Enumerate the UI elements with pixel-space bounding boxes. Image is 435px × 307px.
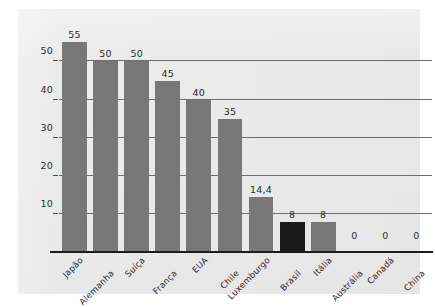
- bar-category: 45: [152, 31, 183, 252]
- y-tick-label: 10: [41, 197, 54, 208]
- x-axis-label: Brasil: [278, 268, 303, 293]
- y-tick-mark: [53, 99, 58, 100]
- x-axis-baseline: [50, 251, 433, 254]
- bar-category: 0: [370, 31, 401, 252]
- bar-value-label: 0: [351, 230, 357, 241]
- x-axis-label: Suíça: [123, 255, 147, 279]
- x-axis-label: França: [150, 268, 178, 296]
- bar: 50: [93, 61, 118, 252]
- bar: 45: [155, 81, 180, 252]
- plot-area: 1020304050 55505045403514,488000: [59, 31, 432, 252]
- bar-category: 0: [401, 31, 432, 252]
- y-tick-mark: [53, 137, 58, 138]
- bar: 8: [280, 222, 305, 252]
- bar-category: 8: [277, 31, 308, 252]
- bar-category: 0: [339, 31, 370, 252]
- x-axis-label: Japão: [61, 255, 86, 280]
- bar: 35: [218, 119, 243, 252]
- y-tick-label: 30: [41, 121, 54, 132]
- bar-series: 55505045403514,488000: [59, 31, 432, 252]
- bar-value-label: 50: [130, 48, 143, 59]
- bar-value-label: 45: [162, 68, 175, 79]
- bar-value-label: 35: [224, 106, 237, 117]
- bar-category: 35: [214, 31, 245, 252]
- bar-category: 50: [121, 31, 152, 252]
- bar-category: 40: [183, 31, 214, 252]
- bar: 40: [186, 100, 211, 252]
- chart-figure: 1020304050 55505045403514,488000 JapãoAl…: [0, 0, 435, 307]
- bar-value-label: 40: [193, 87, 206, 98]
- bar-value-label: 50: [99, 48, 112, 59]
- bar: 50: [124, 61, 149, 252]
- x-axis-label: China: [402, 268, 427, 293]
- bar: 8: [311, 222, 336, 252]
- bar-value-label: 8: [320, 209, 326, 220]
- y-tick-label: 40: [41, 83, 54, 94]
- y-tick-label: 50: [41, 45, 54, 56]
- bar-category: 8: [308, 31, 339, 252]
- bar-value-label: 8: [289, 209, 295, 220]
- bar-category: 14,4: [246, 31, 277, 252]
- x-axis-label: Canadá: [365, 255, 396, 286]
- y-tick-mark: [53, 175, 58, 176]
- x-axis-label: Itália: [311, 255, 334, 278]
- bar-category: 50: [90, 31, 121, 252]
- bar-value-label: 0: [382, 230, 388, 241]
- x-axis-labels: JapãoAlemanhaSuíçaFrançaEUAChileLuxembur…: [59, 255, 432, 307]
- y-tick-mark: [53, 213, 58, 214]
- x-axis-label: EUA: [190, 255, 210, 275]
- x-axis-label: Austrália: [330, 268, 365, 303]
- y-tick-mark: [53, 60, 58, 61]
- x-axis-label: Alemanha: [78, 268, 117, 307]
- bar-value-label: 0: [413, 230, 419, 241]
- bar-value-label: 14,4: [250, 184, 272, 195]
- bar: 55: [62, 42, 87, 252]
- bar: 14,4: [249, 197, 274, 252]
- bar-category: 55: [59, 31, 90, 252]
- y-tick-label: 20: [41, 159, 54, 170]
- bar-value-label: 55: [68, 29, 81, 40]
- chart-panel: 1020304050 55505045403514,488000 JapãoAl…: [18, 9, 420, 294]
